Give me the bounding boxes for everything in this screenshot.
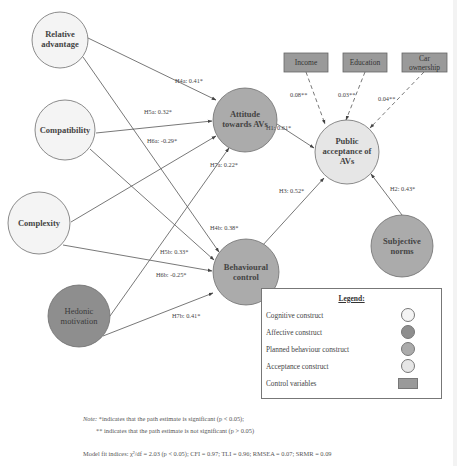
note-line-2: ** indicates that the path estimate is n…	[96, 427, 254, 434]
legend-label: Cognitive construct	[266, 311, 323, 320]
control-label: Income	[295, 58, 318, 67]
node-label: control	[233, 272, 259, 282]
control-label: Education	[350, 58, 381, 67]
path-label-income: 0.08**	[290, 91, 307, 98]
legend-item-acceptance: Acceptance construct	[266, 358, 437, 375]
node-complexity: Complexity	[8, 192, 70, 254]
path-label-h4a: H4a: 0.41*	[175, 77, 203, 84]
control-car-ownership: Car ownership	[402, 53, 447, 72]
note-text-1: *indicates that the path estimate is sig…	[97, 415, 244, 422]
note-line-1: Note: *indicates that the path estimate …	[83, 415, 244, 422]
page-edge	[453, 0, 457, 466]
edge-h4b	[83, 57, 219, 252]
node-attitude-towards-avs: Attitude towards AVs	[213, 88, 277, 152]
node-label: norms	[390, 246, 414, 256]
node-label: Relative	[45, 29, 75, 39]
node-label: Complexity	[18, 218, 61, 228]
path-label-education: 0.03**	[338, 91, 355, 98]
node-relative-advantage: Relative advantage	[32, 12, 88, 68]
control-income: Income	[284, 53, 328, 72]
legend-item-planned-behaviour: Planned behaviour construct	[266, 341, 437, 358]
node-label: AVs	[340, 156, 355, 166]
legend-swatch-cognitive	[401, 308, 415, 322]
node-public-acceptance: Public acceptance of AVs	[315, 120, 379, 184]
legend-item-control: Control variables	[266, 375, 437, 392]
node-label: Hedonic	[65, 306, 94, 316]
legend-label: Acceptance construct	[266, 362, 329, 371]
node-subjective-norms: Subjective norms	[371, 215, 433, 277]
model-fit-indices: Model fit indices: χ²/df = 2.03 (p < 0.0…	[83, 450, 332, 457]
path-label-h5a: H5a: 0.32*	[144, 108, 172, 115]
path-label-h7a: H7a: 0.22*	[210, 161, 238, 168]
node-compatibility: Compatibility	[35, 100, 95, 160]
control-label: ownership	[409, 63, 440, 72]
path-label-h5b: H5b: 0.33*	[160, 248, 188, 255]
legend-item-cognitive: Cognitive construct	[266, 307, 437, 324]
path-labels: H4a: 0.41* H5a: 0.32* H6a: -0.29* H7a: 0…	[144, 77, 415, 319]
legend-item-affective: Affective construct	[266, 324, 437, 341]
control-education: Education	[343, 53, 387, 72]
edge-h4a	[88, 38, 216, 100]
edge-h5b	[90, 149, 214, 260]
note-prefix: Note:	[83, 415, 97, 422]
node-label: Compatibility	[40, 125, 91, 135]
edge-h2	[371, 174, 402, 215]
node-label: acceptance of	[323, 146, 372, 156]
node-label: Subjective	[383, 236, 421, 246]
path-label-h6b: H6b: -0.25*	[156, 271, 186, 278]
path-label-h3: H3: 0.52*	[279, 187, 304, 194]
edge-h6b	[63, 245, 212, 271]
node-label: Attitude	[230, 109, 260, 119]
legend-label: Planned behaviour construct	[266, 345, 349, 354]
edge-h5a	[96, 121, 212, 133]
path-label-h4b: H4b: 0.38*	[210, 224, 238, 231]
edge-h7a	[110, 148, 229, 316]
legend-swatch-planned-behaviour	[401, 342, 415, 356]
path-label-car-ownership: 0.04**	[378, 95, 395, 102]
node-label: motivation	[61, 316, 99, 326]
legend-label: Control variables	[266, 379, 316, 388]
node-label: Behavioural	[224, 262, 269, 272]
path-label-h1: H1: 0.61*	[266, 124, 291, 131]
node-label: advantage	[41, 39, 79, 49]
legend-title: Legend:	[262, 294, 441, 303]
control-edges	[306, 72, 424, 128]
node-label: Public	[335, 136, 358, 146]
legend-swatch-acceptance	[401, 359, 415, 373]
legend-swatch-control	[398, 378, 418, 389]
legend-swatch-affective	[401, 325, 415, 339]
path-label-h6a: H6a: -0.29*	[147, 137, 177, 144]
node-label: towards AVs	[222, 119, 268, 129]
path-label-h7b: H7b: 0.41*	[172, 312, 200, 319]
edge-income	[306, 72, 325, 124]
legend: Legend: Cognitive construct Affective co…	[261, 288, 442, 399]
path-label-h2: H2: 0.43*	[390, 185, 415, 192]
edge-h6a	[71, 136, 216, 222]
legend-label: Affective construct	[266, 328, 322, 337]
node-hedonic-motivation: Hedonic motivation	[48, 285, 110, 347]
